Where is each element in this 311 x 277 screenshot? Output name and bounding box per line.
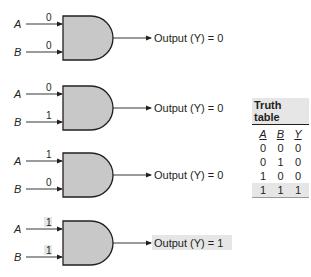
header-y: Y <box>293 127 303 141</box>
truth-table-row: 0 0 0 <box>252 141 309 155</box>
cell-y: 1 <box>293 183 303 197</box>
truth-table-row: 1 0 0 <box>252 169 309 183</box>
output-label: Output (Y) = 0 <box>154 32 223 44</box>
input-b-label: B <box>14 116 21 128</box>
truth-table-title: Truth table <box>252 98 309 125</box>
cell-y: 0 <box>293 169 303 183</box>
cell-b: 0 <box>276 169 286 183</box>
cell-y: 0 <box>293 155 303 169</box>
input-b-value: 0 <box>46 40 52 51</box>
cell-b: 1 <box>276 155 286 169</box>
input-b-label: B <box>14 46 21 58</box>
truth-table-row-highlighted: 1 1 1 <box>252 183 309 198</box>
input-b-value: 0 <box>46 177 52 188</box>
and-gate-body <box>63 221 113 265</box>
input-a-label: A <box>13 18 21 30</box>
input-a-value: 0 <box>46 82 52 93</box>
cell-b: 0 <box>276 141 286 155</box>
input-a-value: 1 <box>46 217 52 228</box>
input-b-value: 1 <box>46 110 52 121</box>
header-a: A <box>258 127 268 141</box>
output-label: Output (Y) = 0 <box>154 102 223 114</box>
output-label: Output (Y) = 1 <box>154 237 223 249</box>
input-a-value: 1 <box>46 149 52 160</box>
cell-a: 1 <box>258 183 268 197</box>
input-b-value: 1 <box>46 245 52 256</box>
and-gate-body <box>63 86 113 130</box>
cell-a: 1 <box>258 169 268 183</box>
and-gate-group: AB00Output (Y) = 0 <box>13 12 223 60</box>
input-b-label: B <box>14 183 21 195</box>
and-gate-group: AB11Output (Y) = 1 <box>13 217 232 265</box>
cell-a: 0 <box>258 155 268 169</box>
truth-table-row: 0 1 0 <box>252 155 309 169</box>
output-label: Output (Y) = 0 <box>154 169 223 181</box>
and-gate-body <box>63 16 113 60</box>
cell-b: 1 <box>276 183 286 197</box>
input-a-label: A <box>13 155 21 167</box>
and-gate-group: AB10Output (Y) = 0 <box>13 149 223 197</box>
cell-y: 0 <box>293 141 303 155</box>
input-a-value: 0 <box>46 12 52 23</box>
input-a-label: A <box>13 88 21 100</box>
and-gate-body <box>63 153 113 197</box>
input-a-label: A <box>13 223 21 235</box>
header-b: B <box>276 127 286 141</box>
input-b-label: B <box>14 251 21 263</box>
truth-table-header: A B Y <box>252 127 309 141</box>
cell-a: 0 <box>258 141 268 155</box>
and-gate-group: AB01Output (Y) = 0 <box>13 82 223 130</box>
truth-table: Truth table A B Y 0 0 0 0 1 0 1 0 0 1 1 … <box>252 98 309 198</box>
